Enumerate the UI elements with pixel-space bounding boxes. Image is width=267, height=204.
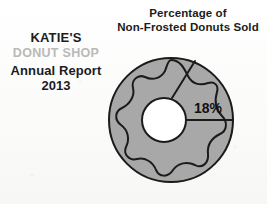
brand-name-primary: KATIE'S [6,31,106,45]
chart-title-line-1: Percentage of [112,6,264,20]
chart-title: Percentage of Non-Frosted Donuts Sold [112,6,264,34]
report-label: Annual Report [6,64,106,78]
slice-label-18: 18% [194,100,223,116]
report-page: KATIE'S DONUT SHOP Annual Report 2013 Pe… [0,0,267,204]
donut-chart: 18% [104,42,244,200]
brand-block: KATIE'S DONUT SHOP Annual Report 2013 [6,31,106,93]
donut-hole [142,98,186,142]
report-year: 2013 [6,79,106,93]
donut-chart-svg: 18% [104,42,244,200]
chart-title-line-2: Non-Frosted Donuts Sold [112,20,264,34]
brand-name-secondary: DONUT SHOP [6,47,106,61]
